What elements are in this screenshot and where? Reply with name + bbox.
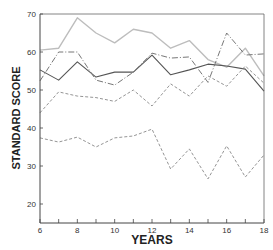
y-tick-label: 30	[27, 162, 36, 171]
series-line-4	[40, 129, 264, 179]
x-tick-label: 14	[185, 226, 194, 235]
x-tick-label: 16	[222, 226, 231, 235]
series-line-3	[40, 66, 264, 113]
ticks: 681012141618203040506070	[27, 10, 269, 235]
y-tick-label: 40	[27, 124, 36, 133]
y-tick-label: 20	[27, 200, 36, 209]
x-axis-title: YEARS	[131, 233, 172, 247]
x-tick-label: 6	[38, 226, 43, 235]
y-axis-title: STANDARD SCORE	[10, 66, 22, 169]
x-tick-label: 10	[110, 226, 119, 235]
series-layer	[40, 18, 264, 179]
line-chart: 681012141618203040506070 YEARS STANDARD …	[0, 0, 273, 250]
y-tick-label: 70	[27, 10, 36, 19]
y-tick-label: 60	[27, 48, 36, 57]
y-tick-label: 50	[27, 86, 36, 95]
x-tick-label: 8	[75, 226, 80, 235]
x-tick-label: 18	[260, 226, 269, 235]
axes	[40, 14, 264, 223]
series-line-2	[40, 33, 264, 85]
series-line-1	[40, 55, 264, 91]
